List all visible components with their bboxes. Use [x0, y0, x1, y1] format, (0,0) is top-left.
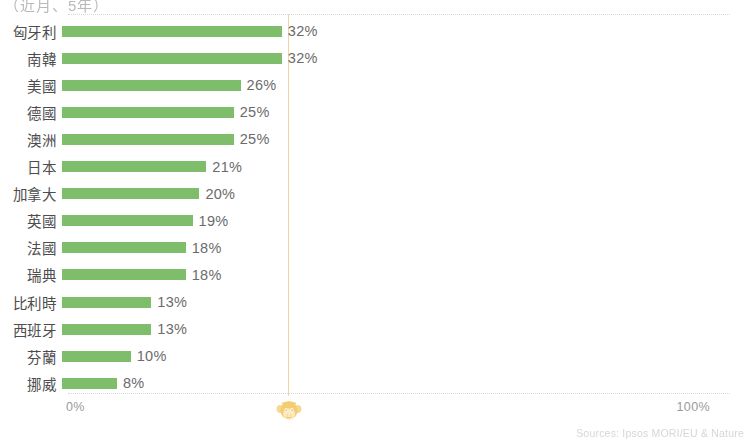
table-row: 法國18% [0, 235, 750, 261]
table-row: 加拿大20% [0, 181, 750, 207]
bar-container: 26% [62, 72, 750, 98]
bar [62, 107, 234, 118]
bar [62, 80, 241, 91]
source-note: Sources: Ipsos MORI/EU & Nature [576, 427, 744, 439]
bar-container: 25% [62, 126, 750, 152]
bar [62, 53, 282, 64]
bar [62, 134, 234, 145]
category-label: 比利時 [0, 292, 62, 313]
bar-value-label: 32% [288, 23, 318, 39]
category-label: 瑞典 [0, 264, 62, 285]
category-label: 美國 [0, 75, 62, 96]
bar-value-label: 32% [288, 50, 318, 66]
bar [62, 269, 186, 280]
bar-container: 8% [62, 370, 750, 396]
table-row: 匈牙利32% [0, 18, 750, 44]
x-axis-min-label: 0% [66, 400, 85, 414]
x-axis-max-label: 100% [676, 400, 710, 414]
bar-container: 18% [62, 262, 750, 288]
category-label: 匈牙利 [0, 21, 62, 42]
bar-rows: 匈牙利32%南韓32%美國26%德國25%澳洲25%日本21%加拿大20%英國1… [0, 14, 750, 394]
bar [62, 215, 193, 226]
bar-value-label: 21% [212, 159, 242, 175]
table-row: 芬蘭10% [0, 343, 750, 369]
table-row: 英國19% [0, 208, 750, 234]
table-row: 南韓32% [0, 45, 750, 71]
bar [62, 188, 199, 199]
bar-value-label: 13% [157, 321, 187, 337]
bar [62, 351, 131, 362]
bar-container: 10% [62, 343, 750, 369]
category-label: 英國 [0, 210, 62, 231]
bar-container: 32% [62, 45, 750, 71]
category-label: 澳洲 [0, 129, 62, 150]
bar-value-label: 19% [199, 213, 229, 229]
table-row: 德國25% [0, 99, 750, 125]
bar-value-label: 10% [137, 348, 167, 364]
bar-value-label: 18% [192, 267, 222, 283]
bar-value-label: 25% [240, 131, 270, 147]
chart-title-clipped: （近月、5年） [4, 0, 109, 15]
bar-value-label: 18% [192, 240, 222, 256]
bar-container: 13% [62, 289, 750, 315]
bar-container: 21% [62, 154, 750, 180]
table-row: 日本21% [0, 154, 750, 180]
category-label: 芬蘭 [0, 346, 62, 367]
table-row: 比利時13% [0, 289, 750, 315]
category-label: 挪威 [0, 373, 62, 394]
bar-value-label: 26% [247, 77, 277, 93]
category-label: 法國 [0, 237, 62, 258]
table-row: 美國26% [0, 72, 750, 98]
bar-container: 32% [62, 18, 750, 44]
category-label: 日本 [0, 156, 62, 177]
bar [62, 161, 206, 172]
bar-container: 13% [62, 316, 750, 342]
category-label: 西班牙 [0, 319, 62, 340]
bar-value-label: 20% [205, 186, 235, 202]
bar [62, 26, 282, 37]
category-label: 德國 [0, 102, 62, 123]
table-row: 澳洲25% [0, 126, 750, 152]
bar-chart: （近月、5年） 匈牙利32%南韓32%美國26%德國25%澳洲25%日本21%加… [0, 0, 750, 440]
bar-value-label: 13% [157, 294, 187, 310]
bar-value-label: 25% [240, 104, 270, 120]
bar [62, 378, 117, 389]
bar-value-label: 8% [123, 375, 145, 391]
table-row: 西班牙13% [0, 316, 750, 342]
table-row: 挪威8% [0, 370, 750, 396]
bar [62, 297, 151, 308]
category-label: 加拿大 [0, 183, 62, 204]
bar-container: 25% [62, 99, 750, 125]
category-label: 南韓 [0, 48, 62, 69]
bar-container: 18% [62, 235, 750, 261]
bar-container: 19% [62, 208, 750, 234]
bar [62, 324, 151, 335]
bar-container: 20% [62, 181, 750, 207]
table-row: 瑞典18% [0, 262, 750, 288]
bar [62, 242, 186, 253]
monkey-face-watermark-icon [276, 400, 302, 422]
